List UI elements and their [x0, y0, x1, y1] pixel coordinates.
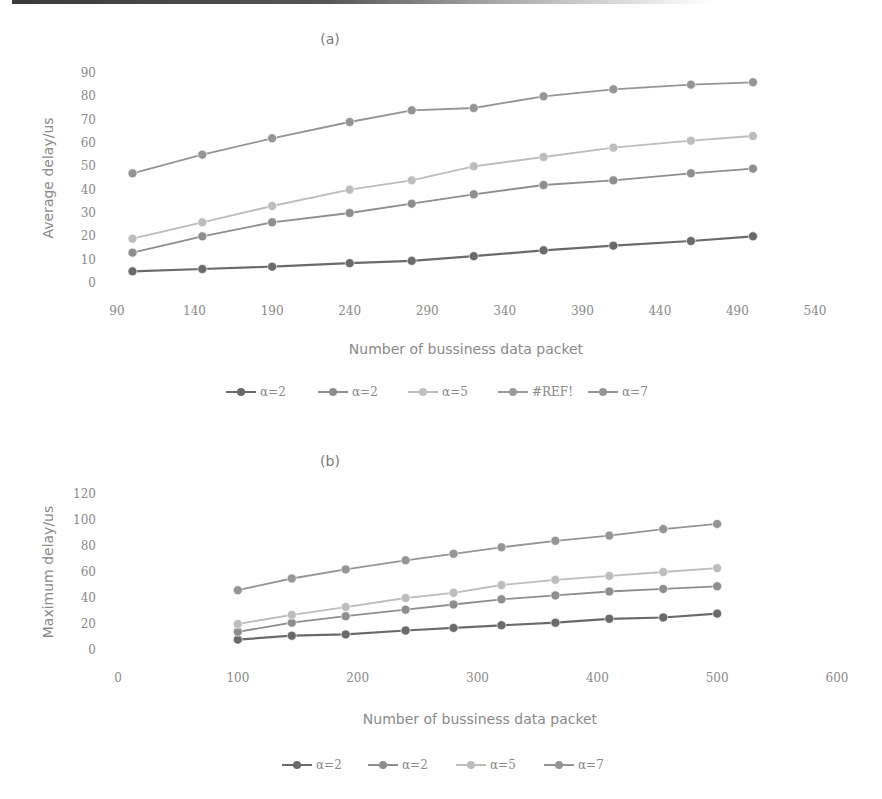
data-point-marker: [609, 85, 618, 94]
data-point-marker: [551, 618, 560, 627]
x-tick-label: 340: [493, 304, 516, 318]
y-axis-title: Maximum delay/us: [40, 506, 56, 639]
data-point-marker: [469, 162, 478, 171]
x-tick-label: 190: [261, 304, 284, 318]
x-tick-label: 600: [826, 671, 849, 685]
data-point-marker: [713, 519, 722, 528]
data-point-marker: [686, 169, 695, 178]
series-line: [128, 132, 757, 244]
legend-marker-icon: [329, 388, 337, 396]
data-point-marker: [233, 620, 242, 629]
legend-label: α=5: [490, 758, 516, 772]
data-point-marker: [268, 262, 277, 271]
data-point-marker: [497, 621, 506, 630]
data-point-marker: [345, 118, 354, 127]
data-point-marker: [659, 525, 668, 534]
data-point-marker: [609, 176, 618, 185]
data-point-marker: [449, 600, 458, 609]
y-tick-label: 10: [81, 253, 96, 267]
data-point-marker: [401, 605, 410, 614]
y-tick-label: 50: [81, 159, 96, 173]
chart-title: (a): [320, 31, 340, 47]
series-line: [128, 232, 757, 276]
data-point-marker: [407, 199, 416, 208]
data-point-marker: [469, 190, 478, 199]
data-point-marker: [401, 626, 410, 635]
y-tick-label: 80: [81, 539, 96, 553]
legend: α=2α=2α=5α=7: [282, 758, 604, 772]
data-point-marker: [449, 549, 458, 558]
data-point-marker: [659, 613, 668, 622]
x-tick-label: 390: [571, 304, 594, 318]
data-point-marker: [497, 543, 506, 552]
data-point-marker: [748, 232, 757, 241]
legend: α=2α=2α=5#REF!α=7: [226, 385, 648, 399]
data-point-marker: [539, 153, 548, 162]
series-line: [233, 519, 721, 594]
data-point-marker: [539, 246, 548, 255]
y-tick-label: 60: [81, 565, 96, 579]
y-tick-label: 0: [88, 276, 96, 290]
data-point-marker: [287, 631, 296, 640]
data-point-marker: [686, 237, 695, 246]
data-point-marker: [287, 574, 296, 583]
data-point-marker: [605, 587, 614, 596]
data-point-marker: [233, 586, 242, 595]
x-tick-label: 200: [346, 671, 369, 685]
data-point-marker: [748, 78, 757, 87]
data-point-marker: [551, 575, 560, 584]
legend-item: α=7: [544, 758, 604, 772]
data-point-marker: [659, 584, 668, 593]
data-point-marker: [551, 591, 560, 600]
data-point-marker: [686, 80, 695, 89]
x-tick-label: 90: [109, 304, 124, 318]
x-tick-label: 290: [416, 304, 439, 318]
figure: (a)0102030405060708090901401902402903403…: [0, 0, 882, 799]
legend-item: α=2: [282, 758, 342, 772]
data-point-marker: [268, 218, 277, 227]
legend-item: α=2: [368, 758, 428, 772]
chart-panel-b: (b)0204060801001200100200300400500600Max…: [40, 453, 848, 772]
legend-marker-icon: [599, 388, 607, 396]
x-tick-label: 440: [648, 304, 671, 318]
data-point-marker: [128, 267, 137, 276]
data-point-marker: [345, 185, 354, 194]
data-point-marker: [497, 581, 506, 590]
data-point-marker: [497, 595, 506, 604]
data-point-marker: [198, 232, 207, 241]
data-point-marker: [713, 564, 722, 573]
data-point-marker: [198, 218, 207, 227]
data-point-marker: [345, 259, 354, 268]
data-point-marker: [605, 531, 614, 540]
legend-label: α=7: [622, 385, 648, 399]
y-tick-label: 0: [88, 643, 96, 657]
data-point-marker: [539, 92, 548, 101]
y-tick-label: 120: [73, 487, 96, 501]
data-point-marker: [128, 169, 137, 178]
y-tick-label: 40: [81, 183, 96, 197]
legend-marker-icon: [419, 388, 427, 396]
x-tick-label: 140: [183, 304, 206, 318]
legend-marker-icon: [509, 388, 517, 396]
y-tick-label: 70: [81, 113, 96, 127]
data-point-marker: [748, 132, 757, 141]
legend-item: α=5: [408, 385, 468, 399]
y-axis-title: Average delay/us: [40, 117, 56, 238]
legend-item: α=7: [588, 385, 648, 399]
data-point-marker: [198, 265, 207, 274]
x-tick-label: 0: [114, 671, 122, 685]
legend-label: α=7: [578, 758, 604, 772]
data-point-marker: [198, 150, 207, 159]
x-axis-title: Number of bussiness data packet: [363, 711, 598, 727]
y-tick-label: 90: [81, 66, 96, 80]
data-point-marker: [287, 610, 296, 619]
y-tick-label: 40: [81, 591, 96, 605]
series-line: [233, 582, 721, 637]
data-point-marker: [539, 181, 548, 190]
data-point-marker: [449, 623, 458, 632]
data-point-marker: [469, 252, 478, 261]
legend-label: α=2: [316, 758, 342, 772]
series-line: [128, 78, 757, 178]
legend-marker-icon: [237, 388, 245, 396]
legend-item: α=2: [226, 385, 286, 399]
